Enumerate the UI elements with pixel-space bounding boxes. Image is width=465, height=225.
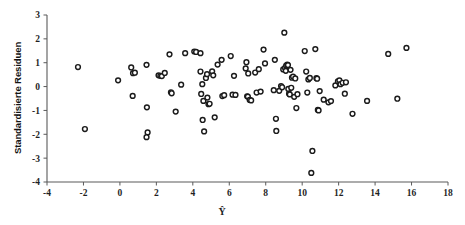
x-tick-label: 2 [154,188,159,198]
data-point [295,92,300,97]
data-point [289,85,294,90]
x-tick-labels-group: -4-2024681012141618 [43,188,453,198]
scatter-chart-container: -4-2024681012141618 3210-1-2-3-4 Ŷ Stand… [0,0,465,225]
data-point [307,76,312,81]
data-point [386,51,391,56]
x-tick-label: -4 [43,188,51,198]
data-point [211,73,216,78]
data-point [167,52,172,57]
data-point [315,76,320,81]
axes-group [44,15,449,186]
data-point [258,89,263,94]
y-tick-label: 0 [35,82,40,92]
data-point [219,57,224,62]
y-tick-label: 1 [35,58,40,68]
data-point [145,130,150,135]
data-point [344,80,349,85]
data-point [215,62,220,67]
data-point [207,101,212,106]
data-point [179,82,184,87]
data-point [222,93,227,98]
data-point [243,66,248,71]
y-tick-label: 2 [35,34,40,44]
data-point [144,135,149,140]
data-point [316,108,321,113]
data-point [200,82,205,87]
data-point [199,92,204,97]
data-point [198,69,203,74]
data-point [232,73,237,78]
data-point [244,60,249,65]
x-tick-label: 16 [407,188,417,198]
data-point [274,129,279,134]
data-point [83,127,88,132]
data-point [162,71,167,76]
data-point [404,46,409,51]
data-point [249,98,254,103]
data-point [132,70,137,75]
data-points-group [76,30,409,175]
data-point [212,115,217,120]
data-point [313,47,318,52]
data-point [198,51,203,56]
data-point [321,97,326,102]
data-point [233,93,238,98]
data-point [130,93,135,98]
data-point [280,85,285,90]
data-point [200,118,205,123]
x-axis-title: Ŷ [218,206,226,217]
data-point [304,69,309,74]
data-point [116,78,121,83]
data-point [274,116,279,121]
data-point [329,99,334,104]
data-point [342,91,347,96]
x-tick-label: 10 [297,188,307,198]
x-tick-label: 0 [118,188,123,198]
data-point [288,67,293,72]
data-point [144,62,149,67]
data-point [317,89,322,94]
data-point [183,51,188,56]
y-tick-label: -2 [32,130,40,140]
data-point [256,67,261,72]
x-tick-label: 18 [443,188,453,198]
data-point [263,61,268,66]
x-tick-label: 14 [370,188,380,198]
data-point [144,105,149,110]
data-point [129,65,134,70]
y-tick-label: 3 [35,10,40,20]
y-axis-title: Standardisierte Residuen [12,42,23,154]
data-point [395,96,400,101]
data-point [302,49,307,54]
x-tick-label: 6 [227,188,232,198]
data-point [169,91,174,96]
data-point [310,149,315,154]
data-point [294,106,299,111]
data-point [271,88,276,93]
data-point [202,129,207,134]
y-tick-labels-group: 3210-1-2-3-4 [32,10,40,187]
data-point [261,47,266,52]
y-tick-label: -1 [32,106,40,116]
x-tick-label: 4 [190,188,195,198]
data-point [272,57,277,62]
data-point [205,72,210,77]
scatter-plot-svg: -4-2024681012141618 3210-1-2-3-4 Ŷ Stand… [0,0,465,225]
data-point [365,98,370,103]
x-tick-label: 12 [334,188,344,198]
data-point [76,65,81,70]
data-point [350,111,355,116]
data-point [282,30,287,35]
x-tick-label: 8 [263,188,268,198]
data-point [286,63,291,68]
data-point [246,71,251,76]
x-tick-label: -2 [79,188,87,198]
y-tick-label: -3 [32,154,40,164]
data-point [173,109,178,114]
data-point [305,90,310,95]
data-point [283,68,288,73]
data-point [228,54,233,59]
data-point [293,76,298,81]
data-point [205,95,210,100]
data-point [309,171,314,176]
